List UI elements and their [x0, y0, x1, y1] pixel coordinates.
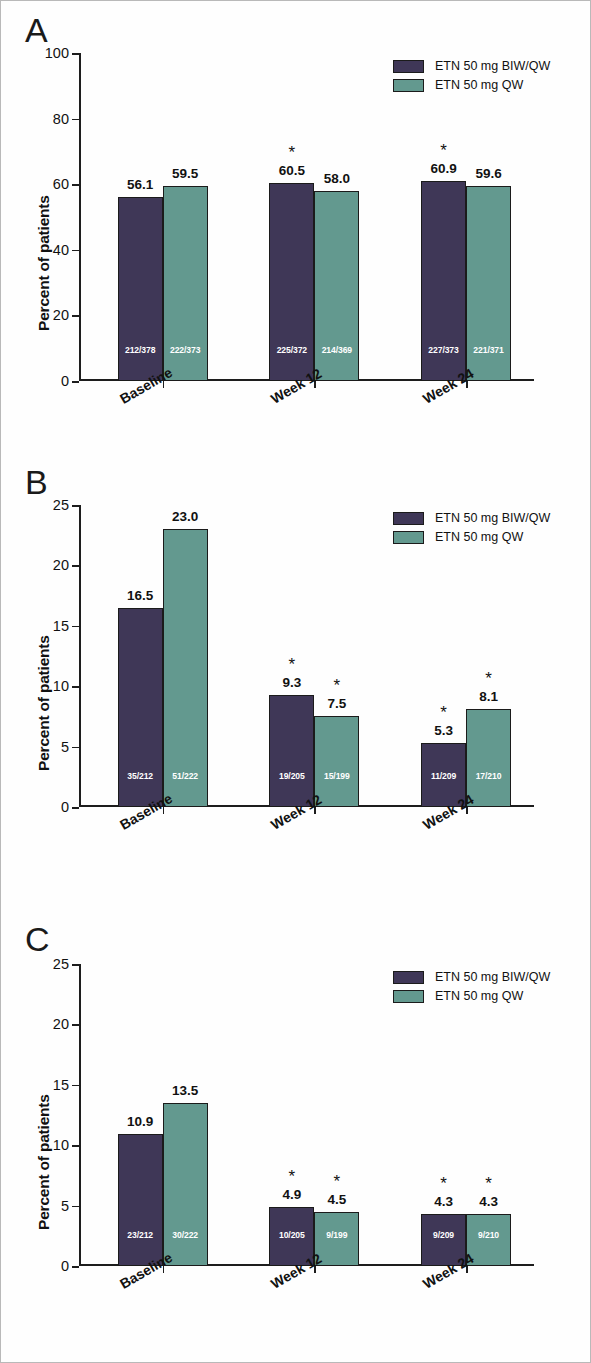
bar-b-1-1 [314, 716, 359, 807]
y-tick-label: 20 [53, 1016, 69, 1032]
y-axis-title: Percent of patients [35, 1094, 53, 1230]
y-tick [72, 747, 79, 749]
y-tick-label: 20 [53, 307, 69, 323]
bar-value-label: 23.0 [172, 509, 198, 524]
bar-value-label: 60.5 [279, 163, 305, 178]
panel-letter-b: B [25, 463, 48, 502]
legend-label: ETN 50 mg QW [435, 78, 523, 92]
y-tick [72, 184, 79, 186]
y-tick [72, 53, 79, 55]
y-axis-title: Percent of patients [35, 195, 53, 331]
bar-fraction-label: 51/222 [172, 771, 198, 781]
bar-b-2-1 [466, 709, 511, 807]
bar-value-label: 58.0 [324, 171, 350, 186]
y-tick-label: 60 [53, 176, 69, 192]
legend-swatch [393, 79, 424, 92]
y-tick-label: 5 [61, 739, 69, 755]
chart-legend-a: ETN 50 mg BIW/QWETN 50 mg QW [393, 59, 550, 97]
y-tick [72, 807, 79, 809]
legend-swatch [393, 512, 424, 525]
plot-area-c: 051015202510.923/21213.530/2224.9*10/205… [79, 964, 534, 1266]
bar-value-label: 10.9 [127, 1114, 153, 1129]
bar-fraction-label: 214/369 [322, 345, 352, 355]
y-tick [72, 1206, 79, 1208]
chart-legend-b: ETN 50 mg BIW/QWETN 50 mg QW [393, 511, 550, 549]
y-axis-line [79, 53, 81, 381]
bar-value-label: 56.1 [127, 177, 153, 192]
bar-value-label: 13.5 [172, 1083, 198, 1098]
legend-swatch [393, 60, 424, 73]
y-tick-label: 0 [61, 799, 69, 815]
bar-value-label: 4.3 [434, 1194, 453, 1209]
y-tick [72, 1085, 79, 1087]
y-axis-line [79, 505, 81, 807]
bar-value-label: 59.6 [475, 166, 501, 181]
bar-value-label: 59.5 [172, 166, 198, 181]
y-tick [72, 315, 79, 317]
significance-marker: * [289, 656, 296, 673]
significance-marker: * [440, 1175, 447, 1192]
bar-fraction-label: 9/210 [478, 1230, 499, 1240]
y-axis-line [79, 964, 81, 1266]
legend-label: ETN 50 mg QW [435, 989, 523, 1003]
bar-value-label: 4.3 [479, 1194, 498, 1209]
y-tick [72, 1024, 79, 1026]
bar-value-label: 4.5 [327, 1192, 346, 1207]
chart-panel-c: CPercent of patients051015202510.923/212… [1, 898, 591, 1363]
panel-letter-c: C [25, 920, 50, 959]
bar-value-label: 5.3 [434, 723, 453, 738]
legend-item: ETN 50 mg BIW/QW [393, 970, 550, 984]
y-tick-label: 0 [61, 373, 69, 389]
bar-fraction-label: 11/209 [431, 771, 456, 781]
y-tick [72, 381, 79, 383]
legend-swatch [393, 990, 424, 1003]
plot-area-b: 051015202516.535/21223.051/2229.3*19/205… [79, 505, 534, 807]
bar-fraction-label: 10/205 [279, 1230, 305, 1240]
bar-fraction-label: 221/371 [473, 345, 503, 355]
y-tick [72, 505, 79, 507]
y-tick [72, 565, 79, 567]
y-tick-label: 10 [53, 1137, 69, 1153]
legend-label: ETN 50 mg BIW/QW [435, 511, 550, 525]
y-tick [72, 1266, 79, 1268]
bar-fraction-label: 35/212 [127, 771, 153, 781]
y-tick-label: 25 [53, 497, 69, 513]
bar-fraction-label: 212/378 [125, 345, 155, 355]
significance-marker: * [440, 704, 447, 721]
bar-value-label: 60.9 [430, 161, 456, 176]
legend-label: ETN 50 mg BIW/QW [435, 59, 550, 73]
significance-marker: * [289, 1168, 296, 1185]
y-tick-label: 0 [61, 1258, 69, 1274]
bar-value-label: 7.5 [327, 696, 346, 711]
bar-value-label: 8.1 [479, 689, 498, 704]
bar-value-label: 9.3 [282, 675, 301, 690]
chart-legend-c: ETN 50 mg BIW/QWETN 50 mg QW [393, 970, 550, 1008]
y-tick-label: 25 [53, 956, 69, 972]
bar-value-label: 16.5 [127, 588, 153, 603]
significance-marker: * [334, 677, 341, 694]
figure-page: APercent of patients02040608010056.1212/… [0, 0, 591, 1363]
bar-fraction-label: 19/205 [279, 771, 305, 781]
y-tick-label: 5 [61, 1198, 69, 1214]
bar-c-0-1 [163, 1103, 208, 1266]
chart-panel-b: BPercent of patients051015202516.535/212… [1, 461, 591, 898]
bar-fraction-label: 23/212 [127, 1230, 153, 1240]
bar-fraction-label: 30/222 [172, 1230, 198, 1240]
y-tick-label: 10 [53, 678, 69, 694]
bar-fraction-label: 17/210 [476, 771, 502, 781]
y-tick-label: 40 [53, 242, 69, 258]
bar-fraction-label: 9/199 [326, 1230, 347, 1240]
y-tick-label: 15 [53, 618, 69, 634]
legend-item: ETN 50 mg QW [393, 989, 550, 1003]
plot-area-a: 02040608010056.1212/37859.5222/37360.5*2… [79, 53, 534, 381]
y-tick-label: 80 [53, 111, 69, 127]
y-tick [72, 119, 79, 121]
significance-marker: * [440, 142, 447, 159]
legend-item: ETN 50 mg BIW/QW [393, 511, 550, 525]
significance-marker: * [289, 144, 296, 161]
y-tick [72, 686, 79, 688]
bar-fraction-label: 9/209 [433, 1230, 454, 1240]
y-tick [72, 1145, 79, 1147]
bar-b-1-0 [269, 695, 314, 807]
bar-b-0-1 [163, 529, 208, 807]
